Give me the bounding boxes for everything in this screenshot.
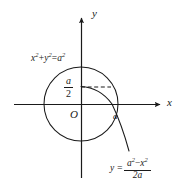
circle-eq-exp-a: 2 <box>62 51 65 58</box>
origin-label: O <box>70 109 78 120</box>
curve-eq-lhs: y = <box>110 164 123 174</box>
point-a-label: a <box>113 112 118 121</box>
y-axis-label: y <box>92 8 97 19</box>
circle-equation-label: x2+y2=a2 <box>31 52 65 64</box>
half-a-denominator: 2 <box>64 89 73 100</box>
curve-equation-label: y = a2−x2 2a <box>110 157 151 181</box>
curve-eq-denominator: 2a <box>124 171 151 181</box>
curve-eq-numerator: a2−x2 <box>124 157 151 169</box>
curve-eq-fraction: a2−x2 2a <box>124 157 151 181</box>
x-axis-label: x <box>167 97 172 108</box>
parabola-curve <box>81 87 129 152</box>
curve-eq-num-x-exp: 2 <box>145 156 148 163</box>
figure-canvas <box>0 0 181 192</box>
half-a-label: a 2 <box>64 76 73 99</box>
math-figure: y x O a x2+y2=a2 a 2 y = a2−x2 2a <box>0 0 181 192</box>
half-a-numerator: a <box>64 76 73 87</box>
half-a-fraction: a 2 <box>64 76 73 99</box>
